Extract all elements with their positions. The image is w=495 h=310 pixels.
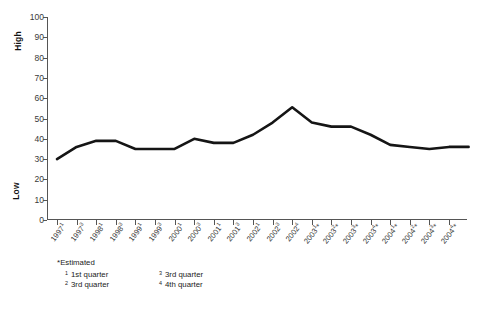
quarter-legend: 11st quarter33rd quarter23rd quarter44th…	[57, 270, 297, 291]
y-axis-tick-mark	[43, 220, 47, 221]
legend-item: 33rd quarter	[149, 270, 259, 281]
footnote-estimated: *Estimated	[57, 258, 357, 269]
legend-row: 11st quarter33rd quarter	[57, 270, 297, 281]
legend-label: 1st quarter	[71, 270, 108, 281]
legend-label: 3rd quarter	[165, 270, 203, 281]
legend-item: 11st quarter	[57, 270, 149, 281]
y-axis-tick-label: 60	[18, 94, 44, 102]
footnotes: *Estimated 11st quarter33rd quarter23rd …	[57, 258, 357, 291]
legend-row: 23rd quarter44th quarter	[57, 280, 297, 291]
y-axis-tick-label: 90	[18, 33, 44, 41]
y-axis-tick-label: 40	[18, 135, 44, 143]
y-axis-tick-label: 30	[18, 155, 44, 163]
y-axis-tick-label: 80	[18, 54, 44, 62]
y-axis-tick-label: 50	[18, 115, 44, 123]
x-axis-tick-labels: 1997119973199811998319991199932000120003…	[47, 222, 487, 256]
plot-area	[47, 17, 467, 220]
data-line-path	[57, 107, 469, 159]
y-axis-tick-label: 100	[18, 13, 44, 21]
data-series-line	[47, 17, 467, 220]
legend-label: 3rd quarter	[71, 280, 109, 291]
y-axis-tick-label: 10	[18, 196, 44, 204]
legend-item: 44th quarter	[149, 280, 259, 291]
y-axis-tick-label: 0	[18, 216, 44, 224]
y-axis-tick-labels: 1009080706050403020100	[10, 0, 44, 310]
footnote-estimated-text: Estimated	[60, 258, 95, 267]
line-chart: High Low 1009080706050403020100 19971199…	[0, 0, 495, 310]
y-axis-tick-label: 20	[18, 175, 44, 183]
legend-item: 23rd quarter	[57, 280, 149, 291]
y-axis-tick-label: 70	[18, 74, 44, 82]
legend-label: 4th quarter	[165, 280, 203, 291]
